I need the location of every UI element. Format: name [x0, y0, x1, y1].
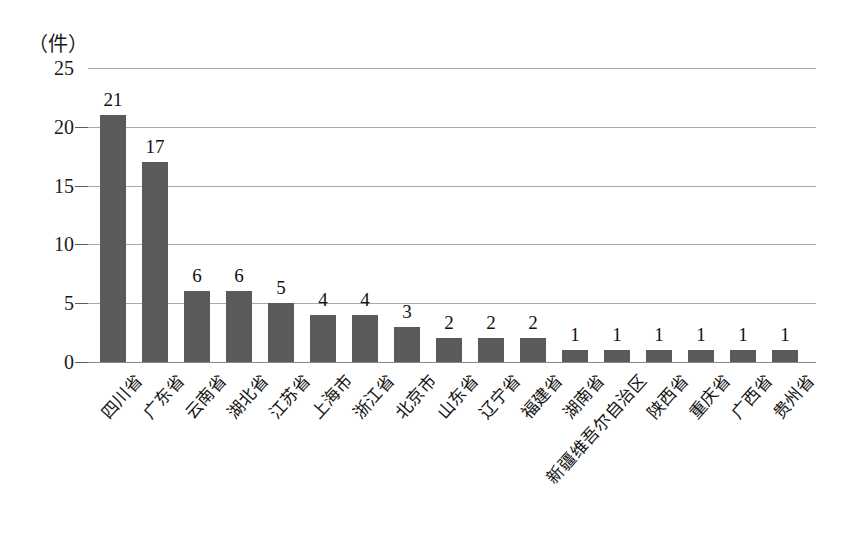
bar[interactable] [394, 327, 420, 362]
bars-layer: 2117665443222111111 [88, 68, 816, 362]
bar-value-label: 3 [386, 301, 428, 323]
y-axis-tick-label: 0 [64, 351, 74, 374]
bar[interactable] [100, 115, 126, 362]
x-axis-category-label: 贵州省 [766, 368, 820, 424]
bar[interactable] [226, 291, 252, 362]
x-axis-category-label: 云南省 [178, 368, 232, 424]
bar-value-label: 1 [764, 324, 806, 346]
y-axis-tick-label: 10 [54, 233, 74, 256]
bar[interactable] [436, 338, 462, 362]
bar-value-label: 1 [596, 324, 638, 346]
bar[interactable] [688, 350, 714, 362]
x-axis-category-label: 广东省 [136, 368, 190, 424]
bar-value-label: 4 [302, 289, 344, 311]
bar-value-label: 6 [218, 265, 260, 287]
bar-value-label: 5 [260, 277, 302, 299]
bar[interactable] [142, 162, 168, 362]
bar[interactable] [310, 315, 336, 362]
bar-value-label: 1 [638, 324, 680, 346]
axis-baseline [88, 362, 816, 363]
bar-value-label: 17 [134, 136, 176, 158]
x-axis-category-label: 重庆省 [682, 368, 736, 424]
bar[interactable] [772, 350, 798, 362]
bar[interactable] [352, 315, 378, 362]
x-axis-category-label: 北京市 [388, 368, 442, 424]
bar-value-label: 2 [512, 312, 554, 334]
y-axis-tick-label: 5 [64, 292, 74, 315]
bar-value-label: 1 [680, 324, 722, 346]
y-axis-unit-caption: （件） [28, 28, 88, 57]
y-axis-tick-mark [75, 244, 88, 245]
bar[interactable] [562, 350, 588, 362]
bar-chart: （件） 0510152025 2117665443222111111 四川省广东… [0, 0, 847, 541]
bar[interactable] [478, 338, 504, 362]
bar-value-label: 2 [428, 312, 470, 334]
bar[interactable] [268, 303, 294, 362]
x-axis-category-label: 福建省 [514, 368, 568, 424]
x-axis-category-label: 四川省 [94, 368, 148, 424]
x-axis-category-label: 浙江省 [346, 368, 400, 424]
bar-value-label: 1 [722, 324, 764, 346]
x-axis-category-label: 江苏省 [262, 368, 316, 424]
x-axis-category-label: 湖北省 [220, 368, 274, 424]
bar[interactable] [520, 338, 546, 362]
bar-value-label: 21 [92, 89, 134, 111]
bar[interactable] [184, 291, 210, 362]
bar-value-label: 4 [344, 289, 386, 311]
bar-value-label: 1 [554, 324, 596, 346]
y-axis-tick-mark [75, 186, 88, 187]
bar-value-label: 2 [470, 312, 512, 334]
bar-value-label: 6 [176, 265, 218, 287]
x-axis-category-label: 辽宁省 [472, 368, 526, 424]
y-axis-tick-label: 20 [54, 115, 74, 138]
bar[interactable] [646, 350, 672, 362]
bar[interactable] [730, 350, 756, 362]
x-axis-category-label: 上海市 [304, 368, 358, 424]
x-axis-category-label: 陕西省 [640, 368, 694, 424]
x-axis-category-label: 广西省 [724, 368, 778, 424]
y-axis-tick-mark [75, 362, 88, 363]
x-axis-category-label: 山东省 [430, 368, 484, 424]
bar[interactable] [604, 350, 630, 362]
category-labels-layer: 四川省广东省云南省湖北省江苏省上海市浙江省北京市山东省辽宁省福建省湖南省新疆维吾… [88, 368, 816, 538]
y-axis-tick-label: 25 [54, 57, 74, 80]
y-axis-tick-mark [75, 127, 88, 128]
y-axis-tick-label: 15 [54, 174, 74, 197]
y-axis-tick-mark [75, 303, 88, 304]
